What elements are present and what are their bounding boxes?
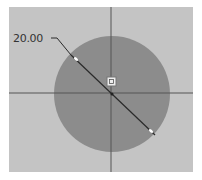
dimension-leader xyxy=(51,38,71,55)
center-point[interactable] xyxy=(111,93,114,96)
dimension-value[interactable]: 20.00 xyxy=(13,32,43,45)
sketch-drawing xyxy=(0,0,202,180)
center-constraint-icon[interactable] xyxy=(107,77,116,86)
